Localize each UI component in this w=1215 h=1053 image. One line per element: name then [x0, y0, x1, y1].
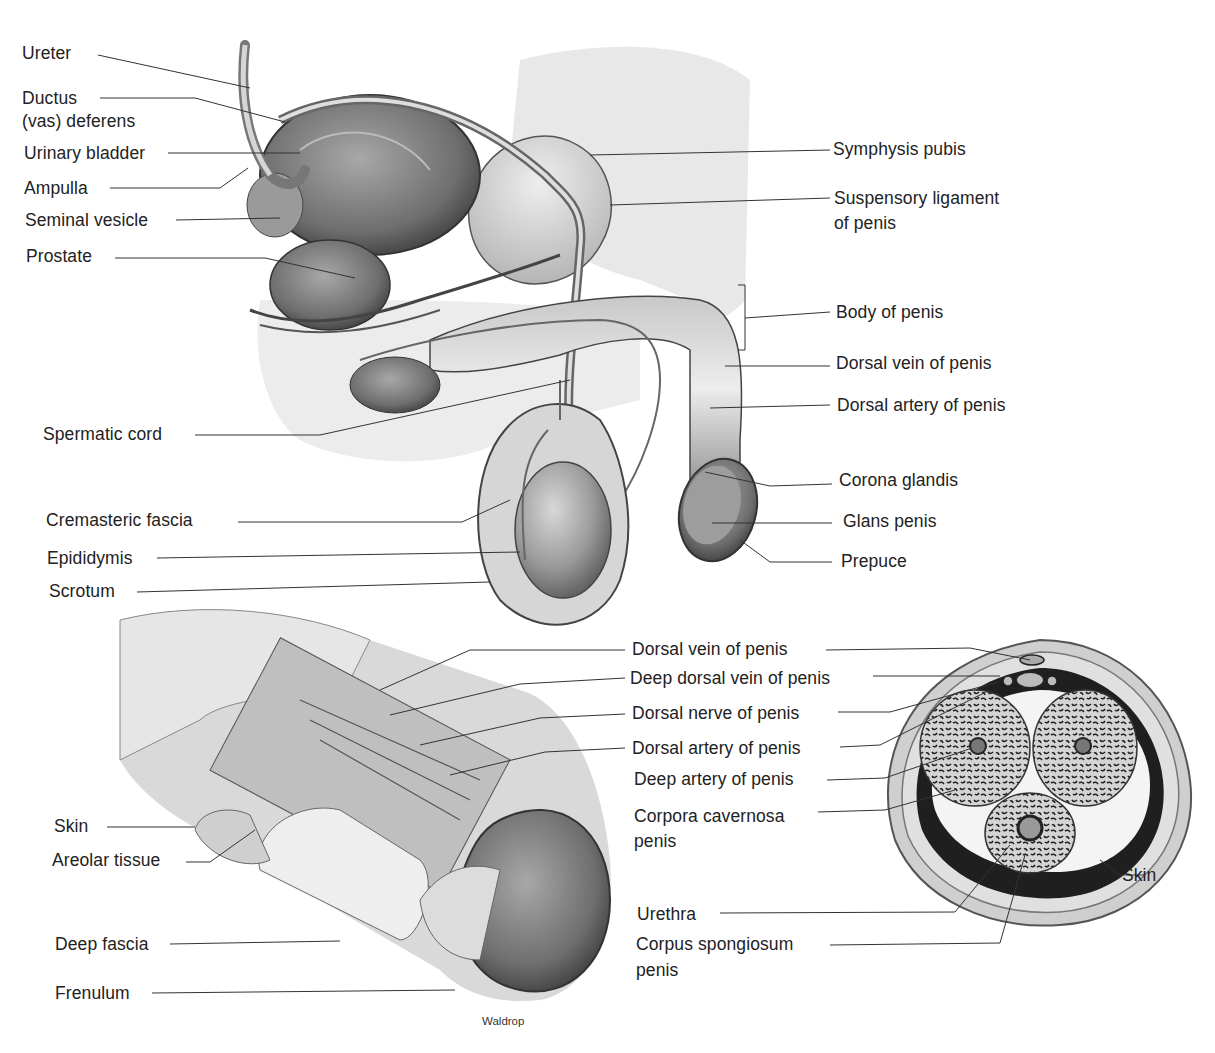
shaft-dissection-illustration	[120, 610, 611, 1001]
label-ductus-deferens: Ductus	[22, 87, 77, 109]
label-corpora-cavernosa-line2: penis	[634, 830, 676, 852]
label-skin-dissection: Skin	[54, 815, 88, 837]
label-dorsal-artery-xsection: Dorsal artery of penis	[632, 737, 801, 759]
label-corpus-spongiosum: Corpus spongiosum	[636, 933, 793, 955]
anatomy-figure: Ureter Ductus (vas) deferens Urinary bla…	[0, 0, 1215, 1053]
sagittal-illustration	[243, 45, 768, 625]
label-cremasteric-fascia: Cremasteric fascia	[46, 509, 193, 531]
label-glans-penis: Glans penis	[843, 510, 937, 532]
label-epididymis: Epididymis	[47, 547, 133, 569]
label-corpora-cavernosa: Corpora cavernosa	[634, 805, 785, 827]
label-ductus-deferens-line2: (vas) deferens	[22, 110, 135, 132]
label-dorsal-vein-sagittal: Dorsal vein of penis	[836, 352, 992, 374]
label-prepuce: Prepuce	[841, 550, 907, 572]
label-areolar-tissue: Areolar tissue	[52, 849, 160, 871]
label-corpus-spongiosum-line2: penis	[636, 959, 678, 981]
label-ureter: Ureter	[22, 42, 71, 64]
label-body-of-penis: Body of penis	[836, 301, 943, 323]
label-spermatic-cord: Spermatic cord	[43, 423, 162, 445]
label-frenulum: Frenulum	[55, 982, 130, 1004]
label-ampulla: Ampulla	[24, 177, 88, 199]
label-suspensory-ligament-line2: of penis	[834, 212, 896, 234]
label-seminal-vesicle: Seminal vesicle	[25, 209, 148, 231]
label-deep-dorsal-vein: Deep dorsal vein of penis	[630, 667, 830, 689]
label-urinary-bladder: Urinary bladder	[24, 142, 145, 164]
label-scrotum: Scrotum	[49, 580, 115, 602]
label-dorsal-artery-sagittal: Dorsal artery of penis	[837, 394, 1006, 416]
label-deep-fascia: Deep fascia	[55, 933, 149, 955]
artist-credit: Waldrop	[482, 1015, 524, 1027]
label-corona-glandis: Corona glandis	[839, 469, 958, 491]
label-prostate: Prostate	[26, 245, 92, 267]
label-urethra: Urethra	[637, 903, 696, 925]
label-dorsal-vein-xsection: Dorsal vein of penis	[632, 638, 788, 660]
label-deep-artery: Deep artery of penis	[634, 768, 794, 790]
label-symphysis-pubis: Symphysis pubis	[833, 138, 966, 160]
label-suspensory-ligament: Suspensory ligament	[834, 187, 999, 209]
label-skin-xsection: Skin	[1122, 864, 1156, 886]
label-dorsal-nerve: Dorsal nerve of penis	[632, 702, 799, 724]
